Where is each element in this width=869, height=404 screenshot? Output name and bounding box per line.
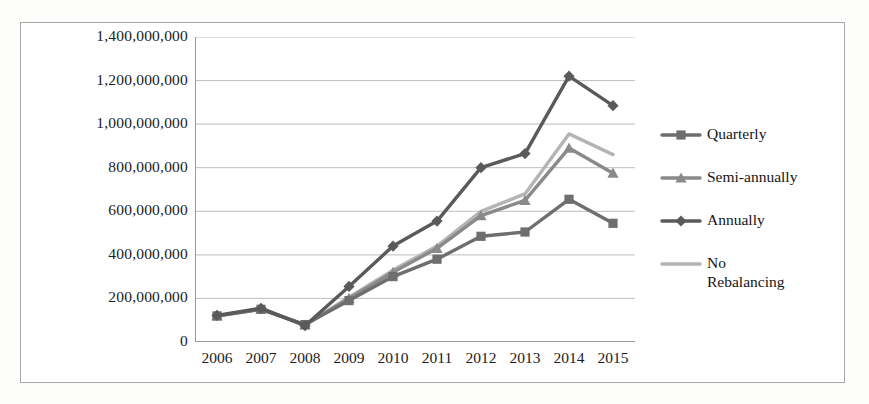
y-axis-tick-label: 600,000,000 — [108, 201, 188, 219]
legend-item-no-rebalancing[interactable]: No Rebalancing — [660, 253, 840, 275]
y-axis-tick-labels: 1,400,000,0001,200,000,0001,000,000,0008… — [28, 0, 188, 404]
x-axis-tick-label: 2014 — [554, 349, 585, 367]
y-axis-tick-label: 800,000,000 — [108, 158, 188, 176]
y-axis-tick-label: 1,200,000,000 — [96, 71, 188, 89]
y-axis-tick-label: 400,000,000 — [108, 245, 188, 263]
series-no-rebalancing — [217, 134, 613, 325]
legend-item-quarterly[interactable]: Quarterly — [660, 124, 840, 146]
x-axis-tick-label: 2006 — [202, 349, 233, 367]
legend-item-semi-annually[interactable]: Semi-annually — [660, 167, 840, 189]
y-axis-tick-label: 0 — [180, 332, 188, 350]
legend-label: Semi-annually — [707, 167, 797, 186]
x-axis-tick-label: 2013 — [510, 349, 541, 367]
x-axis-tick-label: 2012 — [466, 349, 497, 367]
plot-area — [195, 37, 635, 342]
x-axis-tick-label: 2011 — [422, 349, 452, 367]
data-point-square — [608, 219, 617, 228]
x-axis-tick-label: 2009 — [334, 349, 365, 367]
data-point-square — [476, 232, 485, 241]
legend-swatch-diamond-icon — [660, 211, 702, 231]
data-point-square — [520, 227, 529, 236]
series-line — [217, 134, 613, 325]
data-point-square — [676, 130, 685, 139]
x-axis-tick-label: 2010 — [378, 349, 409, 367]
legend-swatch-triangle-icon — [660, 168, 702, 188]
scanned-page-background: 1,400,000,0001,200,000,0001,000,000,0008… — [0, 0, 869, 404]
series-line — [217, 76, 613, 326]
legend-item-annually[interactable]: Annually — [660, 210, 840, 232]
legend-swatch-line-icon — [660, 254, 702, 274]
axis-lines — [195, 37, 635, 342]
data-series-layer — [211, 71, 618, 332]
y-axis-tick-label: 200,000,000 — [108, 288, 188, 306]
legend-label: No Rebalancing — [707, 253, 784, 291]
y-axis-tick-label: 1,000,000,000 — [96, 114, 188, 132]
x-axis-tick-label: 2007 — [246, 349, 277, 367]
data-point-square — [432, 255, 441, 264]
x-axis-tick-label: 2008 — [290, 349, 321, 367]
chart-legend: QuarterlySemi-annuallyAnnuallyNo Rebalan… — [660, 124, 840, 296]
legend-label: Annually — [707, 210, 765, 229]
data-point-square — [388, 272, 397, 281]
series-semi-annually — [211, 143, 618, 330]
x-axis-tick-label: 2015 — [598, 349, 629, 367]
data-point-square — [564, 195, 573, 204]
data-point-diamond — [675, 215, 686, 226]
legend-label: Quarterly — [707, 124, 766, 143]
data-point-square — [344, 296, 353, 305]
series-annually — [211, 71, 618, 332]
y-axis-tick-label: 1,400,000,000 — [96, 27, 188, 45]
line-chart-svg — [195, 37, 635, 342]
legend-swatch-square-icon — [660, 125, 702, 145]
data-point-triangle — [563, 143, 574, 153]
x-axis-tick-labels: 2006200720082009201020112012201320142015 — [195, 349, 635, 375]
